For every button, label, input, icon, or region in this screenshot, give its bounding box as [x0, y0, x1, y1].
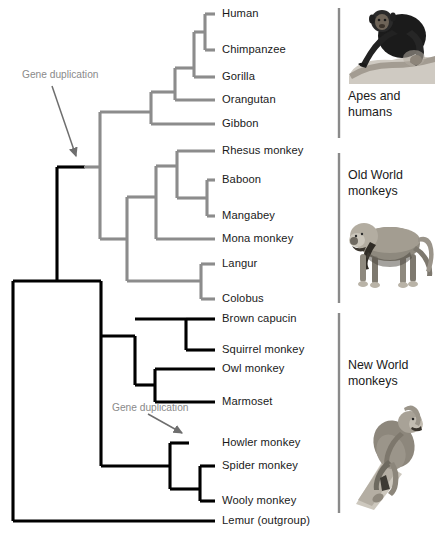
tip-label-gibbon: Gibbon — [222, 118, 259, 129]
tip-label-orangutan: Orangutan — [222, 94, 276, 105]
tip-label-howler-monkey: Howler monkey — [222, 437, 300, 448]
tip-label-brown-capucin: Brown capucin — [222, 313, 297, 324]
tip-label-lemur-outgroup: Lemur (outgroup) — [222, 515, 310, 526]
tip-label-wooly-monkey: Wooly monkey — [222, 495, 296, 506]
tip-label-chimpanzee: Chimpanzee — [222, 44, 286, 55]
group-label-old-world-monkeys: Old World monkeys — [348, 168, 403, 199]
tip-label-rhesus-monkey: Rhesus monkey — [222, 145, 304, 156]
howler-monkey-photo — [356, 405, 423, 510]
gene-duplication-arrows — [52, 86, 182, 433]
tip-label-langur: Langur — [222, 258, 257, 269]
baboon-photo — [349, 223, 434, 288]
gray-lineage-branches — [84, 14, 215, 299]
gene-duplication-label-top: Gene duplication — [22, 70, 98, 80]
gene-duplication-label-bottom: Gene duplication — [112, 403, 188, 413]
gene-duplication-arrow-bottom — [148, 414, 182, 433]
tip-label-mangabey: Mangabey — [222, 210, 275, 221]
tip-label-mona-monkey: Mona monkey — [222, 233, 293, 244]
black-lineage-branches — [13, 167, 215, 521]
group-label-apes-and-humans: Apes and humans — [348, 89, 400, 120]
tree-drawing — [0, 0, 438, 538]
tip-label-gorilla: Gorilla — [222, 71, 255, 82]
group-label-new-world-monkeys: New World monkeys — [348, 358, 408, 389]
chimpanzee-photo — [349, 10, 435, 84]
tip-label-owl-monkey: Owl monkey — [222, 363, 285, 374]
gene-duplication-arrow-top — [52, 86, 76, 156]
tip-label-squirrel-monkey: Squirrel monkey — [222, 344, 304, 355]
tip-label-marmoset: Marmoset — [222, 396, 273, 407]
tip-label-baboon: Baboon — [222, 174, 261, 185]
tip-label-human: Human — [222, 8, 259, 19]
tip-label-spider-monkey: Spider monkey — [222, 460, 298, 471]
phylogenetic-tree-figure: Human Chimpanzee Gorilla Orangutan Gibbo… — [0, 0, 438, 538]
tip-label-colobus: Colobus — [222, 293, 264, 304]
